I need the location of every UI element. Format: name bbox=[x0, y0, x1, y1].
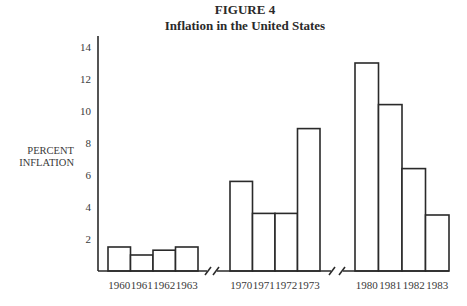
bar-1980 bbox=[355, 63, 379, 271]
y-tick-label: 12 bbox=[80, 73, 91, 85]
y-tick-label: 6 bbox=[86, 169, 92, 181]
bar-1973 bbox=[298, 129, 321, 271]
y-tick-label: 8 bbox=[86, 137, 92, 149]
bar-1981 bbox=[379, 105, 403, 271]
x-axis-labels: 1960196119621963197019711972197319801981… bbox=[108, 279, 449, 291]
x-tick-label: 1971 bbox=[253, 279, 275, 291]
y-axis-label-line-2: INFLATION bbox=[19, 157, 74, 168]
y-axis-label-line-1: PERCENT bbox=[27, 145, 74, 156]
bar-1970 bbox=[230, 181, 253, 271]
bar-1963 bbox=[176, 247, 199, 271]
bar-1972 bbox=[275, 213, 298, 271]
x-tick-label: 1980 bbox=[356, 279, 379, 291]
y-axis-ticks: 2468101214 bbox=[80, 41, 92, 245]
y-tick-label: 10 bbox=[80, 105, 92, 117]
y-tick-label: 4 bbox=[86, 201, 92, 213]
axis-break-mark bbox=[205, 267, 219, 275]
bar-1962 bbox=[153, 250, 176, 271]
x-tick-label: 1982 bbox=[403, 279, 425, 291]
bar-1982 bbox=[402, 169, 426, 271]
bar-1971 bbox=[253, 213, 276, 271]
bar-1983 bbox=[426, 215, 450, 271]
x-tick-label: 1962 bbox=[153, 279, 175, 291]
axis-break-mark bbox=[329, 267, 345, 275]
x-tick-label: 1960 bbox=[108, 279, 131, 291]
y-tick-label: 14 bbox=[80, 41, 92, 53]
x-tick-label: 1983 bbox=[426, 279, 449, 291]
x-tick-label: 1970 bbox=[230, 279, 253, 291]
inflation-bar-chart: FIGURE 4 Inflation in the United States … bbox=[0, 0, 467, 306]
y-tick-label: 2 bbox=[86, 233, 92, 245]
x-tick-label: 1973 bbox=[298, 279, 321, 291]
chart-title: FIGURE 4 bbox=[215, 2, 276, 17]
chart-subtitle: Inflation in the United States bbox=[165, 18, 325, 33]
x-tick-label: 1963 bbox=[176, 279, 199, 291]
bars bbox=[108, 63, 449, 271]
x-tick-label: 1981 bbox=[379, 279, 401, 291]
bar-1961 bbox=[131, 255, 154, 271]
x-tick-label: 1972 bbox=[275, 279, 297, 291]
bar-1960 bbox=[108, 247, 131, 271]
x-tick-label: 1961 bbox=[131, 279, 153, 291]
